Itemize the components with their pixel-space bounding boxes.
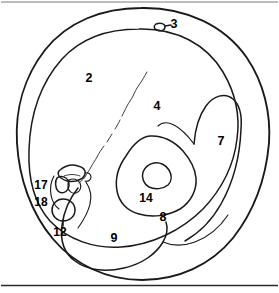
- divider-line-mid-dash-b: [107, 134, 112, 142]
- central-blob-group: [116, 136, 196, 216]
- second-contour-group: [29, 29, 238, 247]
- central-blob-inner-contour: [142, 163, 171, 189]
- second-oval-contour: [29, 29, 238, 247]
- region-9-right-junction: [163, 215, 228, 245]
- region-7-hook-curve: [158, 123, 194, 144]
- label-9: 9: [111, 231, 118, 245]
- divider-line-upper: [122, 72, 147, 116]
- label-14: 14: [139, 191, 153, 205]
- outer-oval-contour: [17, 8, 270, 280]
- label-8: 8: [160, 210, 167, 224]
- region-7-band: [158, 95, 241, 241]
- label-17: 17: [34, 178, 48, 192]
- label-18: 18: [34, 195, 48, 209]
- cluster-17-internal-line: [64, 175, 80, 177]
- label-4: 4: [154, 99, 161, 113]
- cluster-17-hook-tail: [85, 173, 91, 182]
- anatomical-diagram-svg: 3 2 4 7 17 18 14 8 12 9: [0, 0, 279, 293]
- divider-line-mid-dash-a: [115, 120, 120, 129]
- label-7: 7: [218, 134, 225, 148]
- label-3: 3: [171, 17, 178, 31]
- label-3-marker-group: [154, 23, 171, 31]
- cluster-18-left-edge: [51, 176, 59, 209]
- left-cluster-group: [51, 165, 91, 228]
- central-blob-outer-contour: [116, 136, 196, 216]
- region-2-4-divider-group: [79, 72, 147, 183]
- outer-contour-group: [17, 8, 270, 280]
- label-2: 2: [86, 71, 93, 85]
- label-12: 12: [53, 225, 67, 239]
- figure-container: 3 2 4 7 17 18 14 8 12 9: [0, 0, 279, 293]
